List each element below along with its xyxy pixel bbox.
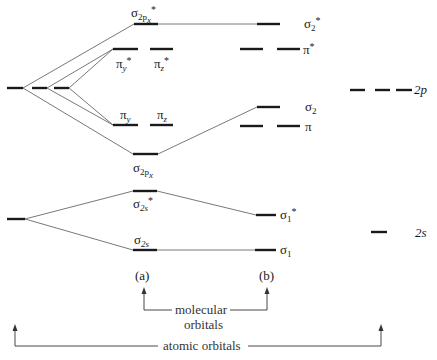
molecular-orbitals-caption-line1: molecular (173, 303, 229, 316)
label-sigma1-star: σ1* (280, 207, 297, 224)
label-sigma2-star: σ2* (304, 16, 321, 33)
label-sigma2: σ2 (305, 100, 317, 116)
molecular-orbitals-caption-line2: orbitals (182, 318, 225, 331)
label-pi-star: π* (303, 42, 315, 56)
label-sigma2px: σ2px (133, 161, 153, 180)
column-b-caption: (b) (259, 269, 274, 282)
label-pi-y: πy (120, 108, 131, 124)
label-sigma2px-star: σ2px* (131, 5, 156, 25)
label-sigma2s: σ2s (134, 233, 149, 249)
label-sigma2s-star: σ2s* (133, 196, 153, 213)
connector-lines (23, 24, 257, 250)
label-pi-z-star: πz* (154, 56, 169, 73)
label-pi-y-star: πy* (116, 56, 132, 73)
atomic-orbitals-caption: atomic orbitals (161, 339, 243, 352)
column-a-caption: (a) (135, 269, 149, 282)
label-2p-right: 2p (414, 83, 427, 96)
label-pi: π (305, 120, 312, 133)
label-pi-z: πz (157, 108, 167, 124)
label-2s-right: 2s (415, 226, 427, 239)
label-sigma1: σ1 (280, 243, 292, 259)
